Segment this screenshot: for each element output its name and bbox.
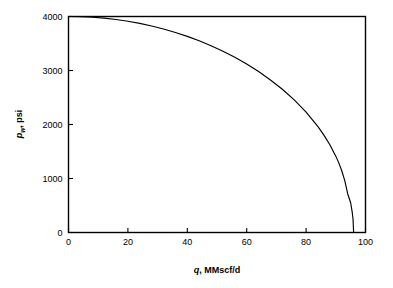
x-tick-label: 100 xyxy=(358,237,373,247)
x-axis-title: q, MMscf/d xyxy=(194,265,241,275)
x-tick-label: 80 xyxy=(301,237,311,247)
y-axis-tick-labels: 01000200030004000 xyxy=(42,12,62,238)
x-tick-label: 60 xyxy=(242,237,252,247)
chart-figure: 020406080100 01000200030004000 q, MMscf/… xyxy=(0,0,393,288)
y-tick-label: 2000 xyxy=(42,120,62,130)
y-tick-label: 1000 xyxy=(42,174,62,184)
x-axis-tick-labels: 020406080100 xyxy=(66,237,373,247)
chart-plot-svg: 020406080100 01000200030004000 q, MMscf/… xyxy=(0,0,393,288)
x-tick-label: 0 xyxy=(66,237,71,247)
y-axis-title: pw, psi xyxy=(14,110,26,140)
x-axis-title-rest: , MMscf/d xyxy=(199,265,240,275)
x-tick-label: 20 xyxy=(123,237,133,247)
y-tick-label: 0 xyxy=(57,228,62,238)
x-tick-label: 40 xyxy=(182,237,192,247)
y-tick-label: 4000 xyxy=(42,12,62,22)
y-tick-label: 3000 xyxy=(42,66,62,76)
y-axis-title-rest: , psi xyxy=(14,110,24,128)
